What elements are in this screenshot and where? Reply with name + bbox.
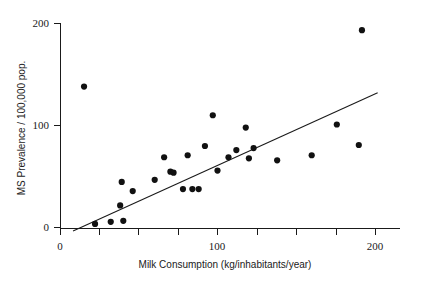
data-point: [92, 221, 98, 227]
data-point: [152, 177, 158, 183]
y-axis: 200 100 0 MS Prevalence / 100,000 pop.: [16, 17, 61, 233]
data-point: [233, 147, 239, 153]
data-point: [119, 179, 125, 185]
data-point: [274, 157, 280, 163]
data-point: [130, 188, 136, 194]
data-point-series: [81, 27, 365, 227]
data-point: [196, 186, 202, 192]
scatter-plot-figure: 200 100 0 MS Prevalence / 100,000 pop. 0…: [0, 0, 446, 282]
x-tick-label-100: 100: [209, 240, 226, 252]
data-point: [309, 152, 315, 158]
data-point: [251, 145, 257, 151]
x-tick-label-0: 0: [57, 240, 63, 252]
x-tick-label-200: 200: [367, 240, 384, 252]
data-point: [359, 27, 365, 33]
data-point: [225, 154, 231, 160]
data-point: [180, 186, 186, 192]
data-point: [243, 124, 249, 130]
data-point: [185, 152, 191, 158]
x-axis: 0 100 200 Milk Consumption (kg/inhabitan…: [57, 229, 400, 271]
data-point: [356, 142, 362, 148]
data-point: [189, 186, 195, 192]
x-axis-title: Milk Consumption (kg/inhabitants/year): [139, 259, 312, 270]
y-tick-label-100: 100: [33, 119, 50, 131]
y-tick-label-200: 200: [33, 17, 50, 29]
data-point: [334, 121, 340, 127]
chart-canvas: 200 100 0 MS Prevalence / 100,000 pop. 0…: [0, 0, 446, 282]
data-point: [117, 202, 123, 208]
data-point: [81, 83, 87, 89]
y-tick-label-0: 0: [44, 221, 50, 233]
data-point: [108, 219, 114, 225]
data-point: [214, 168, 220, 174]
data-point: [120, 218, 126, 224]
data-point: [246, 155, 252, 161]
y-axis-title: MS Prevalence / 100,000 pop.: [16, 61, 27, 196]
data-point: [161, 154, 167, 160]
data-point: [170, 170, 176, 176]
regression-line: [73, 93, 378, 231]
data-point: [210, 112, 216, 118]
data-point: [202, 143, 208, 149]
trend-line: [73, 93, 378, 231]
